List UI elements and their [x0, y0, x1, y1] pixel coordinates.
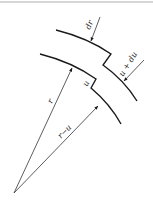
- label-r: r: [46, 97, 56, 105]
- inner-arc: [40, 54, 121, 124]
- label-r-minus-u: r−u: [56, 123, 73, 141]
- label-dr: dr: [84, 18, 96, 31]
- label-u-plus-du: u + du: [117, 50, 139, 78]
- displacement-diagram: dr u + du u r r−u: [0, 0, 153, 208]
- radius-r-minus-u-arrow: [14, 106, 98, 193]
- label-u: u: [81, 79, 91, 88]
